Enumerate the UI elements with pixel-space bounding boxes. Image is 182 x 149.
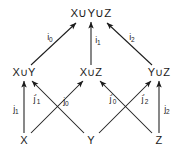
- node-x-union-z: X∪Z: [80, 67, 102, 78]
- node-z: Z: [156, 135, 163, 146]
- edge-label-j0: j0: [63, 97, 69, 106]
- arrow-yz-to-top: [107, 23, 152, 65]
- node-x-union-y-union-z: X∪Y∪Z: [71, 8, 112, 19]
- arrow-y-to-xy: [32, 81, 84, 133]
- edge-label-i0-subscript: 0: [49, 36, 53, 43]
- edge-label-j0-prime: j′0: [109, 95, 116, 104]
- edge-label-i2-subscript: 2: [131, 36, 135, 43]
- edge-label-j2-subscript: 2: [166, 108, 170, 115]
- edge-label-j0-prime-subscript: 0: [113, 98, 117, 105]
- node-y: Y: [87, 135, 94, 146]
- node-x: X: [20, 135, 27, 146]
- arrow-z-to-xz: [100, 81, 152, 133]
- edge-label-j1: j1: [13, 105, 19, 114]
- arrow-y-to-yz: [99, 81, 151, 133]
- edge-label-j2-prime: j′2: [141, 95, 148, 104]
- edge-label-i2: i2: [129, 33, 135, 42]
- commutative-diagram: X∪Y∪Z X∪Y X∪Z Y∪Z X Y Z i0 i1 i2 j1 j′1 …: [0, 0, 182, 149]
- edge-label-i1-subscript: 1: [97, 39, 101, 46]
- node-x-union-y: X∪Y: [13, 67, 36, 78]
- edge-label-j1-prime-subscript: 1: [37, 98, 41, 105]
- edge-label-i1: i1: [95, 36, 101, 45]
- edge-label-j0-subscript: 0: [65, 100, 69, 107]
- node-y-union-z: Y∪Z: [148, 67, 170, 78]
- edge-label-j1-subscript: 1: [15, 108, 19, 115]
- arrow-xy-to-top: [31, 23, 76, 65]
- edge-label-j1-prime: j′1: [33, 95, 40, 104]
- arrow-x-to-xz: [31, 81, 83, 133]
- edge-label-i0: i0: [47, 33, 53, 42]
- edge-label-j2-prime-subscript: 2: [145, 98, 149, 105]
- edge-label-j2: j2: [164, 105, 170, 114]
